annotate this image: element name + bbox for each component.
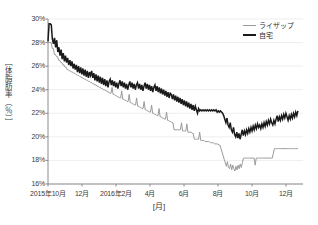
legend-swatch-raizap	[243, 25, 256, 26]
legend-item-raizap: ライザップ	[243, 20, 294, 30]
y-tick-label: 26%	[14, 62, 45, 69]
legend-label-jitaku: 自宅	[259, 32, 273, 39]
y-tick-label: 22%	[14, 109, 45, 116]
y-tick-label: 28%	[14, 39, 45, 46]
legend-swatch-jitaku	[243, 34, 256, 36]
y-tick-label: 18%	[14, 156, 45, 163]
legend-item-jitaku: 自宅	[243, 30, 273, 40]
y-tick-label: 30%	[14, 15, 45, 22]
x-axis-title: [月]	[0, 200, 318, 211]
legend-label-raizap: ライザップ	[259, 22, 294, 29]
x-tick-label: 12月	[256, 188, 316, 198]
y-tick-label: 24%	[14, 86, 45, 93]
y-tick-label: 20%	[14, 133, 45, 140]
y-tick-label: 16%	[14, 180, 45, 187]
chart-container: ［体脂肪率（％）］ 30%28%26%24%22%20%18%16% 2015年…	[0, 0, 318, 225]
